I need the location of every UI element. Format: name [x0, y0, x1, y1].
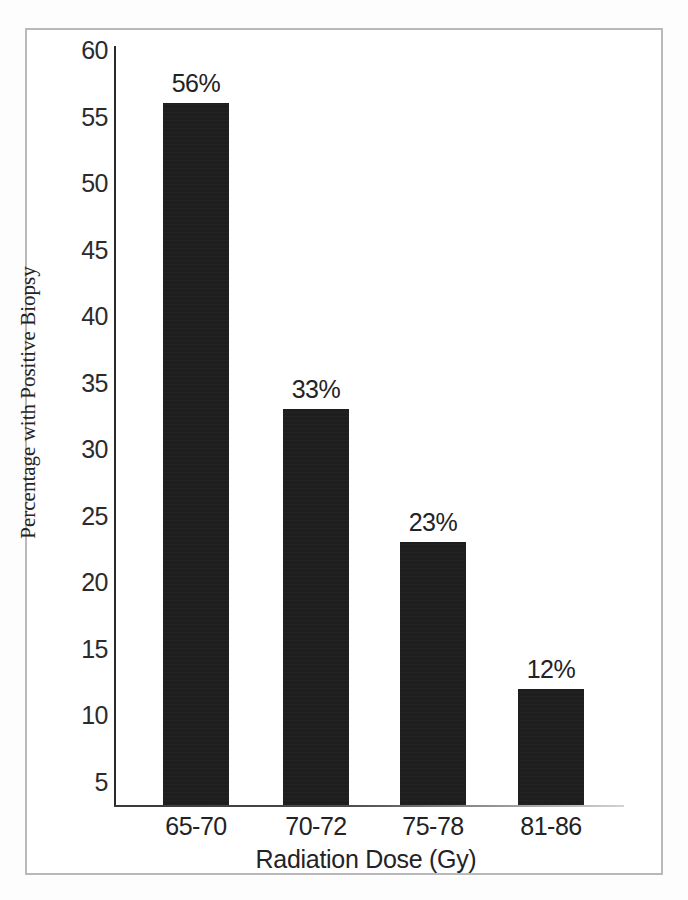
y-axis-tick-labels: 60555045403530252015105 — [52, 0, 108, 900]
y-axis-tick-label: 25 — [60, 503, 108, 528]
x-axis-tick-label: 65-70 — [136, 812, 256, 841]
x-axis-tick-label: 75-78 — [373, 812, 493, 841]
x-axis-title: Radiation Dose (Gy) — [116, 845, 616, 874]
y-axis-tick-label: 60 — [60, 38, 108, 63]
y-axis-tick-label: 40 — [60, 304, 108, 329]
y-axis-tick-label: 35 — [60, 370, 108, 395]
bar — [163, 103, 229, 805]
bar-value-label: 12% — [498, 655, 604, 684]
y-axis-tick-label: 20 — [60, 570, 108, 595]
y-axis-tick-label: 15 — [60, 636, 108, 661]
y-axis-tick-label: 10 — [60, 703, 108, 728]
y-axis-tick-label: 30 — [60, 437, 108, 462]
y-axis-tick-label: 5 — [60, 770, 108, 795]
x-axis-line — [114, 805, 624, 807]
x-axis-tick-label: 81-86 — [491, 812, 611, 841]
x-axis-tick-label: 70-72 — [256, 812, 376, 841]
figure-page: 60555045403530252015105 Percentage with … — [0, 0, 688, 900]
y-axis-tick-label: 45 — [60, 237, 108, 262]
bar-value-label: 33% — [263, 375, 369, 404]
y-axis-title: Percentage with Positive Biopsy — [16, 163, 41, 643]
plot-area: 56%33%23%12% — [116, 50, 616, 805]
bar — [518, 689, 584, 805]
bar — [283, 409, 349, 805]
y-axis-tick-label: 50 — [60, 171, 108, 196]
y-axis-tick-label: 55 — [60, 104, 108, 129]
bar — [400, 542, 466, 805]
bar-value-label: 23% — [380, 508, 486, 537]
bar-value-label: 56% — [143, 69, 249, 98]
